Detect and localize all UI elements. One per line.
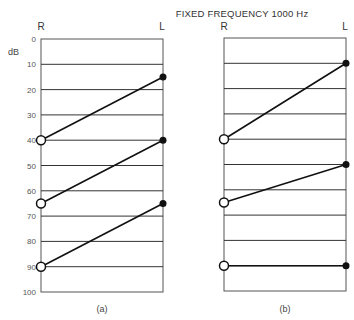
y-tick-label: 50 bbox=[27, 162, 36, 171]
y-tick-label: 20 bbox=[27, 86, 36, 95]
y-tick-labels: 0102030405060708090100 bbox=[23, 35, 37, 297]
panel-b-caption: (b) bbox=[280, 304, 291, 314]
panel-b-r-label: R bbox=[220, 21, 227, 32]
threshold-line bbox=[41, 140, 163, 203]
right-ear-open-circle-icon bbox=[37, 136, 46, 145]
panel-a-caption: (a) bbox=[97, 304, 108, 314]
right-ear-open-circle-icon bbox=[220, 261, 229, 270]
left-ear-filled-dot-icon bbox=[343, 60, 350, 67]
threshold-line bbox=[224, 63, 346, 139]
y-tick-label: 90 bbox=[27, 263, 36, 272]
y-tick-label: 30 bbox=[27, 111, 36, 120]
audiogram-figure: FIXED FREQUENCY 1000 Hz dB R L 010203040… bbox=[0, 0, 354, 320]
panel-a: R L 0102030405060708090100 (a) bbox=[23, 21, 167, 314]
y-tick-label: 40 bbox=[27, 136, 36, 145]
left-ear-filled-dot-icon bbox=[160, 200, 167, 207]
panel-b: R L (b) bbox=[220, 21, 350, 314]
left-ear-filled-dot-icon bbox=[160, 137, 167, 144]
threshold-line bbox=[41, 203, 163, 266]
y-tick-label: 70 bbox=[27, 212, 36, 221]
figure-title: FIXED FREQUENCY 1000 Hz bbox=[176, 8, 309, 19]
y-tick-label: 0 bbox=[32, 35, 37, 44]
threshold-line bbox=[41, 77, 163, 140]
left-ear-filled-dot-icon bbox=[343, 161, 350, 168]
panel-a-r-label: R bbox=[37, 21, 44, 32]
right-ear-open-circle-icon bbox=[37, 199, 46, 208]
y-tick-label: 60 bbox=[27, 187, 36, 196]
right-ear-open-circle-icon bbox=[220, 135, 229, 144]
threshold-line bbox=[224, 165, 346, 203]
left-ear-filled-dot-icon bbox=[160, 73, 167, 80]
right-ear-open-circle-icon bbox=[37, 262, 46, 271]
panel-a-l-label: L bbox=[159, 21, 165, 32]
y-axis-label: dB bbox=[8, 47, 19, 57]
y-tick-label: 100 bbox=[23, 288, 37, 297]
right-ear-open-circle-icon bbox=[220, 198, 229, 207]
y-tick-label: 10 bbox=[27, 60, 36, 69]
panel-b-l-label: L bbox=[342, 21, 348, 32]
y-tick-label: 80 bbox=[27, 237, 36, 246]
panel-b-grid bbox=[224, 38, 346, 291]
left-ear-filled-dot-icon bbox=[343, 262, 350, 269]
panel-a-grid bbox=[41, 39, 163, 292]
